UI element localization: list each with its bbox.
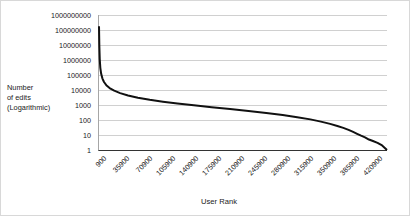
x-axis-tick-label: 420900 <box>362 154 385 177</box>
x-axis-tick-label: 70900 <box>134 154 155 175</box>
x-axis-tick-label: 900 <box>94 154 109 169</box>
x-axis-tick-label: 385900 <box>338 154 361 177</box>
x-axis-tick-label: 105900 <box>154 154 177 177</box>
x-axis-title: User Rank <box>1 197 411 206</box>
y-axis-tick-label: 1000000 <box>63 56 91 65</box>
y-axis-tick-label: 10 <box>83 131 91 140</box>
x-axis-tick-label: 35900 <box>111 154 132 175</box>
y-axis-tick-label: 100000 <box>67 71 91 80</box>
x-axis-tick-label: 175900 <box>200 154 223 177</box>
y-axis-tick-label: 1 <box>87 146 91 155</box>
chart-container: Number of edits (Logarithmic) 1000000000… <box>0 0 410 216</box>
plot-area <box>98 15 387 151</box>
y-axis-tick-label: 10000000 <box>59 41 91 50</box>
x-axis-tick-label: 280900 <box>269 154 292 177</box>
x-axis-tick-label: 350900 <box>315 154 338 177</box>
x-axis-title-label: User Rank <box>201 197 237 206</box>
y-axis-tick-label: 1000 <box>75 101 91 110</box>
x-axis-tick-label: 140900 <box>177 154 200 177</box>
x-axis-tick-label: 315900 <box>292 154 315 177</box>
y-axis-tick-label: 10000 <box>71 86 91 95</box>
y-axis-tick-label: 100 <box>79 116 91 125</box>
x-axis-tick-label: 210900 <box>223 154 246 177</box>
x-axis-tick-label: 245900 <box>246 154 269 177</box>
y-axis-tick-label: 1000000000 <box>51 11 91 20</box>
y-axis-tick-labels: 1000000000100000000100000001000000100000… <box>37 14 95 150</box>
x-axis-tick-labels: 9003590070900105900140900175900210900245… <box>98 152 386 192</box>
y-axis-tick-label: 100000000 <box>55 26 91 35</box>
series-line-number-of-edits <box>99 15 387 150</box>
